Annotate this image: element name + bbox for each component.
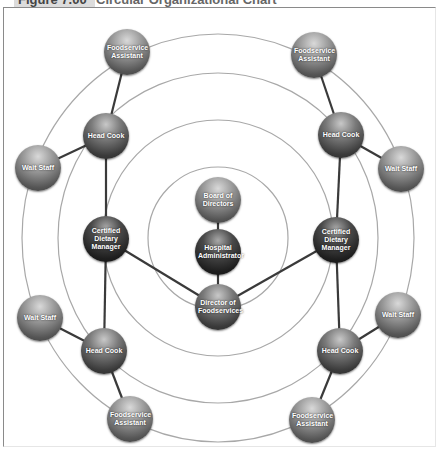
node-label: Head Cook [321,131,361,139]
node-foodservice-assistant-top-left: Foodservice Assistant [104,29,150,75]
node-label: Foodservice Assistant [110,411,150,427]
node-wait-staff-bottom-left: Wait Staff [17,295,63,341]
node-label: Head Cook [86,132,126,140]
node-label: Foodservice Assistant [292,412,332,428]
node-label: Head Cook [320,347,360,355]
node-label: Director of Foodservices [198,299,238,315]
node-label: Wait Staff [18,164,58,172]
node-head-cook-bottom-right: Head Cook [317,328,363,374]
node-label: Head Cook [84,347,124,355]
node-label: Foodservice Assistant [294,47,334,63]
node-wait-staff-top-right: Wait Staff [378,146,424,192]
org-chart-rings-and-connectors [0,0,440,451]
node-label: Foodservice Assistant [107,44,147,60]
node-label: Hospital Administrator [198,244,238,260]
node-certified-dietary-manager-left: Certified Dietary Manager [83,216,129,262]
node-label: Board of Directors [198,192,238,208]
node-board-of-directors: Board of Directors [195,177,241,223]
node-wait-staff-bottom-right: Wait Staff [375,292,421,338]
node-label: Wait Staff [378,311,418,319]
node-foodservice-assistant-bottom-right: Foodservice Assistant [289,397,335,443]
node-certified-dietary-manager-right: Certified Dietary Manager [313,217,359,263]
node-label: Wait Staff [381,165,421,173]
node-foodservice-assistant-top-right: Foodservice Assistant [291,32,337,78]
node-head-cook-top-right: Head Cook [318,112,364,158]
node-foodservice-assistant-bottom-left: Foodservice Assistant [107,396,153,442]
node-wait-staff-top-left: Wait Staff [15,145,61,191]
node-head-cook-bottom-left: Head Cook [81,328,127,374]
node-head-cook-top-left: Head Cook [83,113,129,159]
node-label: Certified Dietary Manager [316,228,356,252]
node-label: Wait Staff [20,314,60,322]
node-label: Certified Dietary Manager [86,227,126,251]
node-director-of-foodservices: Director of Foodservices [195,284,241,330]
node-hospital-administrator: Hospital Administrator [195,229,241,275]
